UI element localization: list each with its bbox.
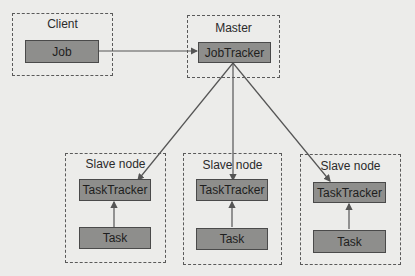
tasktracker-node: TaskTracker <box>79 179 151 201</box>
tasktracker-node: TaskTracker <box>313 182 386 203</box>
hadoop-mapreduce-diagram: Client Job Master JobTracker Slave node … <box>0 0 415 276</box>
client-label: Client <box>13 17 112 31</box>
slave-node-group-3: Slave node TaskTracker Task <box>300 154 401 265</box>
slave-node-label: Slave node <box>66 157 165 171</box>
slave-node-label: Slave node <box>184 158 281 172</box>
jobtracker-node: JobTracker <box>198 42 271 63</box>
slave-node-group-1: Slave node TaskTracker Task <box>65 153 166 263</box>
master-group: Master JobTracker <box>187 15 280 78</box>
tasktracker-node: TaskTracker <box>196 179 268 201</box>
task-node: Task <box>79 227 151 249</box>
task-node: Task <box>313 230 386 253</box>
task-node: Task <box>196 228 268 250</box>
client-group: Client Job <box>12 13 113 76</box>
master-label: Master <box>188 21 279 35</box>
slave-node-group-2: Slave node TaskTracker Task <box>183 153 282 265</box>
job-node: Job <box>25 40 99 63</box>
slave-node-label: Slave node <box>301 159 400 173</box>
